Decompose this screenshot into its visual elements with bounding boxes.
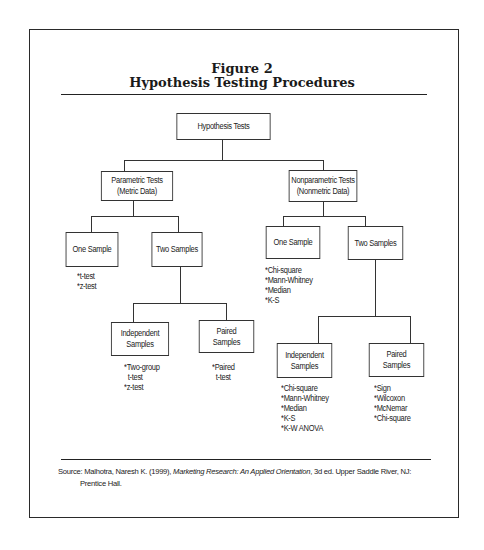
test-item: *z-test: [77, 281, 96, 291]
hypothesis-tests-box: Hypothesis Tests: [176, 113, 270, 140]
source-prefix: Source: Malhotra, Naresh K. (1999),: [58, 467, 173, 476]
paired-label-2: Samples: [383, 360, 410, 371]
nonparametric-one-sample-label: One Sample: [274, 237, 313, 248]
hypothesis-tests-label: Hypothesis Tests: [197, 121, 249, 132]
connector: [222, 140, 223, 160]
connector: [283, 216, 366, 217]
test-item: *McNemar: [374, 403, 411, 413]
nonparametric-label-2: (Nonmetric Data): [297, 186, 350, 197]
nonparametric-tests-box: Nonparametric Tests (Nonmetric Data): [289, 170, 358, 202]
connector: [226, 303, 227, 320]
test-item: *z-test: [124, 382, 160, 392]
parametric-label-1: Parametric Tests: [111, 175, 162, 186]
parametric-two-samples-box: Two Samples: [151, 232, 202, 267]
parametric-independent-box: Independent Samples: [111, 322, 169, 356]
nonparametric-paired-box: Paired Samples: [369, 343, 424, 377]
test-item: *Median: [265, 285, 313, 295]
test-item: t-test: [124, 372, 160, 382]
source-citation: Source: Malhotra, Naresh K. (1999), Mark…: [58, 466, 448, 490]
nonparametric-one-sample-tests: *Chi-square*Mann-Whitney*Median*K-S: [265, 265, 313, 305]
nonparametric-label-1: Nonparametric Tests: [291, 175, 354, 186]
source-rule: [61, 459, 431, 460]
test-item: *Paired: [212, 362, 235, 372]
parametric-tests-box: Parametric Tests (Metric Data): [101, 171, 173, 201]
connector: [124, 160, 324, 161]
figure-title: Hypothesis Testing Procedures: [0, 75, 484, 90]
parametric-independent-tests: *Two-group t-test*z-test: [124, 362, 160, 392]
test-item: *Median: [281, 403, 329, 413]
connector: [318, 316, 411, 317]
nonparametric-independent-box: Independent Samples: [277, 343, 332, 378]
test-item: *Sign: [374, 383, 411, 393]
independent-label-1: Independent: [121, 328, 160, 339]
title-rule: [61, 94, 427, 95]
test-item: *Chi-square: [281, 383, 329, 393]
test-item: *Mann-Whitney: [265, 275, 313, 285]
figure-label: Figure 2: [0, 61, 484, 76]
test-item: *K-S: [265, 295, 313, 305]
connector: [323, 160, 324, 170]
paired-label-1: Paired: [386, 349, 406, 360]
connector: [124, 160, 125, 171]
connector: [133, 303, 134, 322]
independent-label-2: Samples: [126, 339, 153, 350]
connector: [375, 260, 376, 316]
test-item: *t-test: [77, 271, 96, 281]
paired-label-2: Samples: [213, 337, 240, 348]
connector: [283, 216, 284, 226]
nonparametric-two-samples-label: Two Samples: [354, 238, 396, 249]
connector: [180, 267, 181, 303]
paired-label-1: Paired: [216, 326, 236, 337]
connector: [323, 202, 324, 216]
source-book-title: Marketing Research: An Applied Orientati…: [173, 467, 310, 476]
connector: [91, 216, 179, 217]
parametric-paired-tests: *Paired t-test: [212, 362, 235, 382]
connector: [318, 316, 319, 343]
nonparametric-independent-tests: *Chi-square*Mann-Whitney*Median*K-S*K-W …: [281, 383, 329, 433]
nonparametric-two-samples-box: Two Samples: [348, 226, 403, 260]
connector: [365, 216, 366, 226]
independent-label-1: Independent: [285, 350, 324, 361]
connector: [178, 216, 179, 232]
test-item: *Mann-Whitney: [281, 393, 329, 403]
nonparametric-paired-tests: *Sign*Wilcoxon*McNemar*Chi-square: [374, 383, 411, 423]
parametric-paired-box: Paired Samples: [199, 320, 254, 353]
connector: [133, 303, 227, 304]
test-item: *K-S: [281, 413, 329, 423]
connector: [91, 216, 92, 232]
parametric-one-sample-box: One Sample: [66, 232, 119, 267]
parametric-one-sample-label: One Sample: [73, 244, 112, 255]
test-item: *Chi-square: [374, 413, 411, 423]
connector: [410, 316, 411, 343]
test-item: *K-W ANOVA: [281, 423, 329, 433]
independent-label-2: Samples: [291, 361, 318, 372]
test-item: *Two-group: [124, 362, 160, 372]
connector: [133, 201, 134, 216]
nonparametric-one-sample-box: One Sample: [266, 226, 321, 259]
parametric-one-sample-tests: *t-test*z-test: [77, 271, 96, 291]
parametric-two-samples-label: Two Samples: [156, 244, 198, 255]
test-item: *Wilcoxon: [374, 393, 411, 403]
test-item: t-test: [212, 372, 235, 382]
source-suffix: , 3d ed. Upper Saddle River, NJ:: [310, 467, 411, 476]
source-continuation: Prentice Hall.: [58, 478, 448, 490]
parametric-label-2: (Metric Data): [117, 186, 157, 197]
test-item: *Chi-square: [265, 265, 313, 275]
